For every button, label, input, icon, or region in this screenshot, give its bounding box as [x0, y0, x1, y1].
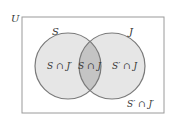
- region-s-only-label: S ∩ J′: [47, 61, 72, 71]
- region-j-only-label: S′ ∩ J: [112, 61, 138, 71]
- venn-diagram: U S J S ∩ J′ S ∩ J S′ ∩ J S′ ∩ J′: [0, 0, 180, 122]
- set-s-label: S: [52, 26, 59, 37]
- set-j-label: J: [127, 26, 134, 37]
- region-neither-label: S′ ∩ J′: [127, 99, 154, 109]
- universe-label: U: [11, 13, 20, 24]
- region-intersection-label: S ∩ J: [78, 61, 102, 71]
